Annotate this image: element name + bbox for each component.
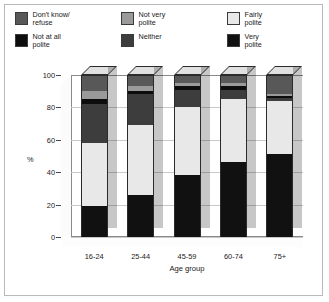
y-tick-label: 20 xyxy=(47,200,55,209)
bar-segment xyxy=(127,75,154,86)
bar-segment xyxy=(220,83,247,86)
bar-group xyxy=(257,75,303,237)
plot-panel xyxy=(61,75,303,247)
bar-group xyxy=(117,75,163,237)
y-tick-label: 100 xyxy=(43,71,55,80)
bar-segment xyxy=(220,90,247,100)
stacked-bar[interactable] xyxy=(127,75,154,237)
bar-segment xyxy=(174,86,201,89)
x-tick-label: 45-59 xyxy=(164,247,210,261)
legend-swatch-icon xyxy=(227,34,240,47)
bar-segment xyxy=(266,94,293,96)
bar-segment xyxy=(220,86,247,89)
bar-segment xyxy=(266,96,293,98)
bar-segment xyxy=(81,206,108,237)
bar-series-container xyxy=(71,75,303,237)
bar-segment xyxy=(266,75,293,94)
chart-frame: Don't know/ refuseNot very politeFairly … xyxy=(4,4,323,296)
legend-swatch-icon xyxy=(227,12,240,25)
bar-segment xyxy=(220,75,247,83)
legend-item[interactable]: Don't know/ refuse xyxy=(15,11,103,28)
stacked-bar[interactable] xyxy=(81,75,108,237)
legend-item-label: Very polite xyxy=(245,33,262,50)
bar-segment xyxy=(266,101,293,154)
bar-segment xyxy=(81,91,108,99)
x-tick-labels: 16-2425-4445-5960-7475+ xyxy=(71,247,303,261)
bar-segment xyxy=(127,86,154,91)
x-tick-label: 75+ xyxy=(257,247,303,261)
legend-item[interactable]: Very polite xyxy=(227,33,315,50)
bar-segment xyxy=(81,104,108,143)
bar-segment xyxy=(81,99,108,104)
bar-segment xyxy=(127,94,154,125)
legend-item[interactable]: Not at all polite xyxy=(15,33,103,50)
x-tick-label: 25-44 xyxy=(117,247,163,261)
legend-item-label: Not at all polite xyxy=(33,33,61,50)
legend-swatch-icon xyxy=(121,34,134,47)
bar-segment xyxy=(174,83,201,86)
bar-segment xyxy=(81,143,108,206)
stacked-bar[interactable] xyxy=(174,75,201,237)
gridline xyxy=(71,237,303,238)
x-axis-label: Age group xyxy=(71,264,303,273)
bar-segment xyxy=(174,75,201,83)
legend-item-label: Fairly polite xyxy=(245,11,263,28)
legend-item-label: Don't know/ refuse xyxy=(33,11,70,28)
legend-swatch-icon xyxy=(15,12,28,25)
y-tick-label: 40 xyxy=(47,168,55,177)
legend-row: Not at all politeNeitherVery polite xyxy=(5,33,324,50)
stacked-bar[interactable] xyxy=(220,75,247,237)
x-tick-label: 60-74 xyxy=(210,247,256,261)
y-axis: % 020406080100 xyxy=(29,75,61,247)
bar-segment xyxy=(220,99,247,162)
y-tick-label: 80 xyxy=(47,103,55,112)
chart-legend: Don't know/ refuseNot very politeFairly … xyxy=(5,11,324,55)
bar-group xyxy=(210,75,256,237)
legend-item-label: Not very polite xyxy=(139,11,166,28)
bar-group xyxy=(71,75,117,237)
legend-item[interactable]: Not very polite xyxy=(121,11,209,28)
bar-group xyxy=(164,75,210,237)
legend-swatch-icon xyxy=(15,34,28,47)
bar-segment xyxy=(174,175,201,237)
y-tick-label: 60 xyxy=(47,135,55,144)
x-tick-label: 16-24 xyxy=(71,247,117,261)
bar-segment xyxy=(220,162,247,237)
legend-item-label: Neither xyxy=(139,33,162,41)
plot-area: % 020406080100 16-2425-4445-5960-7475+ A… xyxy=(29,75,311,261)
bar-segment xyxy=(266,98,293,101)
bar-segment xyxy=(174,107,201,175)
bar-segment xyxy=(266,154,293,237)
legend-item[interactable]: Fairly polite xyxy=(227,11,315,28)
legend-swatch-icon xyxy=(121,12,134,25)
stacked-bar[interactable] xyxy=(266,75,293,237)
y-axis-label: % xyxy=(27,155,34,164)
bar-segment xyxy=(127,91,154,94)
panel-side-wall xyxy=(61,85,71,237)
bar-segment xyxy=(127,125,154,195)
y-tick-label: 0 xyxy=(51,233,55,242)
legend-item[interactable]: Neither xyxy=(121,33,209,50)
bar-segment xyxy=(127,195,154,237)
bar-segment xyxy=(81,75,108,91)
panel-floor xyxy=(61,237,303,247)
bar-segment xyxy=(174,90,201,108)
legend-row: Don't know/ refuseNot very politeFairly … xyxy=(5,11,324,28)
